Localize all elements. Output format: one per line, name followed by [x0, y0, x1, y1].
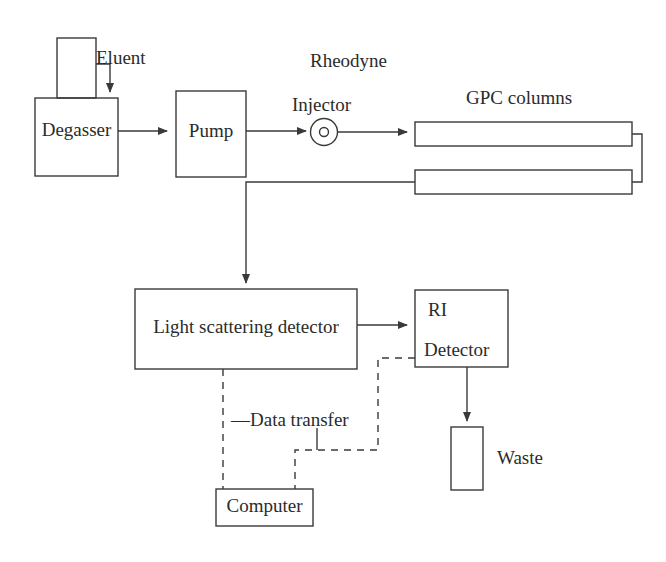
injector-inner-circle [320, 128, 329, 137]
light-scattering-detector-label: Light scattering detector [135, 317, 357, 337]
pump-label: Pump [176, 121, 246, 141]
injector-label: Injector [292, 95, 351, 115]
data-transfer-leader: — [231, 410, 250, 430]
data-transfer-label: Data transfer [250, 410, 349, 430]
eluent-label: Eluent [96, 48, 146, 68]
ri-detector-label-line1: RI [428, 300, 447, 320]
waste-label: Waste [497, 448, 543, 468]
computer-label: Computer [216, 496, 313, 516]
ri-detector-label-line2: Detector [424, 340, 489, 360]
injector-outer-circle [311, 119, 338, 146]
diagram-vector-layer [0, 0, 666, 562]
eluent-to-degasser-line [96, 64, 110, 92]
degasser-label: Degasser [35, 120, 118, 140]
gpc-columns-label: GPC columns [466, 88, 572, 108]
rheodyne-label: Rheodyne [310, 51, 387, 71]
column-to-lsd-line [246, 182, 415, 283]
gpc-diagram-canvas: Eluent Degasser Pump Rheodyne Injector G… [0, 0, 666, 562]
eluent-bottle-shape [57, 38, 96, 98]
waste-bottle-shape [451, 427, 483, 490]
gpc-column-bottom-shape [415, 170, 632, 194]
column-interconnect-line [632, 134, 642, 182]
gpc-column-top-shape [415, 122, 632, 146]
